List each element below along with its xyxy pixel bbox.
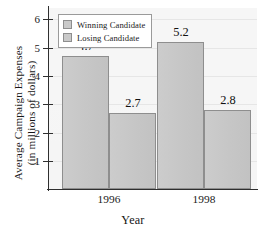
y-tick-label-2: 2: [26, 127, 40, 139]
bar-1996-winning: [62, 56, 109, 189]
plot-area: 4.7 2.7 5.2 2.8 Winning Candidate Losing…: [48, 8, 257, 189]
x-axis-title: Year: [0, 213, 266, 228]
legend-item-losing: Losing Candidate: [63, 31, 145, 44]
y-tick-mark-3: [43, 104, 53, 105]
y-tick-label-6: 6: [26, 13, 40, 25]
y-tick-mark-1: [43, 161, 53, 162]
legend-label-winning: Winning Candidate: [77, 20, 145, 30]
y-tick-mark-5: [43, 48, 53, 49]
legend-swatch-icon-winning: [63, 20, 72, 29]
bar-1998-winning: [157, 42, 204, 189]
bar-value-1996-losing: 2.7: [125, 96, 141, 111]
bar-value-1998-winning: 5.2: [173, 25, 189, 40]
y-tick-label-3: 3: [26, 98, 40, 110]
legend-swatch-icon-losing: [63, 33, 72, 42]
bar-chart-figure: Average Campaign Expenses (in millions o…: [0, 0, 266, 237]
y-tick-label-1: 1: [26, 155, 40, 167]
y-tick-label-4: 4: [26, 70, 40, 82]
y-tick-mark-4: [43, 76, 53, 77]
bar-1998-losing: [204, 110, 251, 189]
y-axis-line: [48, 6, 49, 191]
chart-legend: Winning Candidate Losing Candidate: [58, 14, 152, 48]
x-tick-label-1996: 1996: [98, 193, 121, 205]
x-tick-label-1998: 1998: [193, 193, 216, 205]
legend-label-losing: Losing Candidate: [77, 33, 139, 43]
bar-value-1998-losing: 2.8: [220, 93, 236, 108]
bar-1996-losing: [109, 113, 156, 189]
legend-item-winning: Winning Candidate: [63, 18, 145, 31]
x-axis-line: [47, 189, 258, 190]
y-axis-title-line-1: Average Campaign Expenses: [12, 46, 25, 181]
y-tick-mark-6: [43, 19, 53, 20]
y-tick-label-5: 5: [26, 42, 40, 54]
y-tick-mark-2: [43, 133, 53, 134]
